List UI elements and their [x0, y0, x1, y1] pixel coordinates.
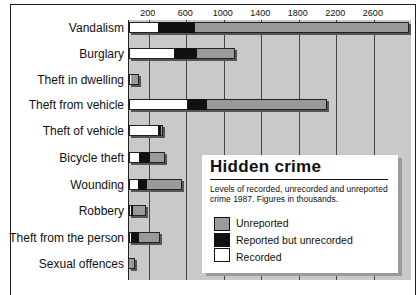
bar-segment-unrep — [147, 179, 182, 190]
x-tick-label: 2600 — [363, 8, 383, 18]
bar-segment-unrec — [139, 152, 149, 163]
bar-segment-rec — [129, 125, 158, 136]
x-tick-label: 2200 — [325, 8, 345, 18]
x-tick-label: 600 — [178, 8, 193, 18]
chart-title: Hidden crime — [210, 157, 321, 177]
bar-segment-rec — [129, 99, 187, 110]
bar-segment-unrep — [133, 205, 146, 216]
legend-label-unreported: Unreported — [236, 217, 289, 229]
bar — [129, 179, 182, 190]
bar-segment-unrep — [131, 74, 139, 85]
bar-segment-rec — [129, 152, 139, 163]
bar-segment-rec — [129, 48, 174, 59]
legend-swatch-unreported — [214, 217, 230, 231]
x-tick-label: 200 — [140, 8, 155, 18]
bar-segment-rec — [129, 179, 138, 190]
bar-segment-unrec — [174, 48, 197, 59]
bar-segment-rec — [129, 22, 158, 33]
bar-segment-unrec — [187, 99, 207, 110]
bar — [129, 74, 139, 85]
bar — [129, 99, 327, 110]
category-label: Vandalism — [69, 21, 124, 35]
bar — [129, 22, 409, 33]
chart-subtitle: Levels of recorded, unrecorded and unrep… — [210, 184, 394, 204]
bar-segment-unrec — [158, 22, 195, 33]
category-label: Bicycle theft — [59, 151, 124, 165]
bar-segment-unrep — [197, 48, 235, 59]
category-label: Theft of vehicle — [43, 124, 124, 138]
bar-segment-unrep — [195, 22, 410, 33]
bar-segment-unrep — [161, 125, 163, 136]
bar — [129, 232, 160, 243]
title-rule — [210, 179, 388, 180]
category-label: Theft from vehicle — [29, 98, 124, 112]
category-label: Robbery — [79, 204, 124, 218]
category-label: Theft in dwelling — [37, 73, 124, 87]
legend-box: Hidden crime Levels of recorded, unrecor… — [202, 155, 398, 273]
legend-swatch-recorded — [214, 248, 230, 262]
bar-segment-unrec — [131, 232, 139, 243]
bar-segment-unrep — [139, 232, 161, 243]
gridline — [186, 20, 187, 280]
bar-segment-unrep — [207, 99, 327, 110]
bar-segment-unrep — [129, 258, 135, 269]
bar — [129, 152, 165, 163]
bar-segment-unrep — [150, 152, 165, 163]
bar — [129, 48, 235, 59]
bar-segment-unrec — [138, 179, 146, 190]
bar — [129, 258, 135, 269]
legend-label-recorded: Recorded — [236, 251, 282, 263]
legend-label-unrecorded: Reported but unrecorded — [236, 234, 353, 246]
bar — [129, 205, 146, 216]
category-label: Burglary — [79, 47, 124, 61]
x-tick-label: 1800 — [288, 8, 308, 18]
x-tick-label: 1000 — [213, 8, 233, 18]
category-label: Wounding — [70, 178, 124, 192]
category-label: Sexual offences — [39, 257, 124, 271]
legend-swatch-unrecorded — [214, 233, 230, 247]
x-tick-label: 1400 — [250, 8, 270, 18]
category-label: Theft from the person — [9, 231, 124, 245]
bar — [129, 125, 163, 136]
